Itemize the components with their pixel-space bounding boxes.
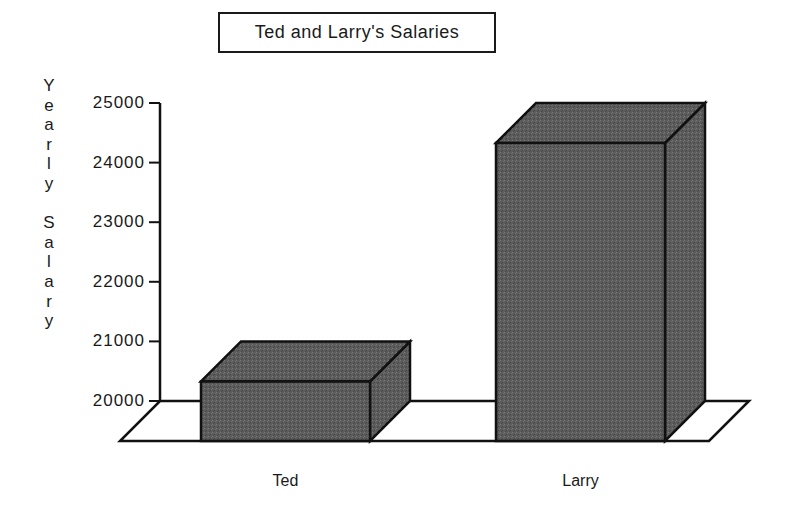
y-axis-label-letter: Y: [43, 76, 54, 96]
chart-title: Ted and Larry's Salaries: [218, 12, 496, 53]
bar-side-face: [665, 103, 705, 441]
y-tick-label: 20000: [93, 391, 145, 411]
y-tick-label: 22000: [93, 272, 145, 292]
bar-chart-3d: [0, 0, 785, 522]
bar-front-face: [496, 143, 665, 441]
bar-larry: [496, 103, 705, 441]
y-axis-label-letter: S: [43, 213, 54, 233]
y-axis-label-letter: [47, 194, 52, 214]
y-tick-label: 23000: [93, 212, 145, 232]
y-tick-label: 21000: [93, 331, 145, 351]
y-axis-label-letter: y: [45, 174, 54, 194]
y-axis-label-letter: l: [47, 252, 51, 272]
y-tick-label: 25000: [93, 93, 145, 113]
y-axis-label-letter: l: [47, 154, 51, 174]
y-axis-label-letter: a: [44, 233, 53, 253]
y-axis-label-letter: e: [44, 96, 53, 116]
y-axis-label-letter: a: [44, 115, 53, 135]
bar-ted: [201, 341, 410, 441]
y-axis-label-letter: y: [45, 311, 54, 331]
x-tick-label: Ted: [273, 472, 299, 490]
y-axis-ticks: [149, 103, 160, 401]
x-tick-label: Larry: [562, 472, 598, 490]
bars-group: [201, 103, 705, 441]
y-axis-label: Yearly Salary: [40, 76, 58, 331]
y-axis-label-letter: a: [44, 272, 53, 292]
bar-front-face: [201, 381, 370, 441]
y-axis-label-letter: r: [46, 292, 52, 312]
y-axis-label-letter: r: [46, 135, 52, 155]
y-tick-label: 24000: [93, 153, 145, 173]
